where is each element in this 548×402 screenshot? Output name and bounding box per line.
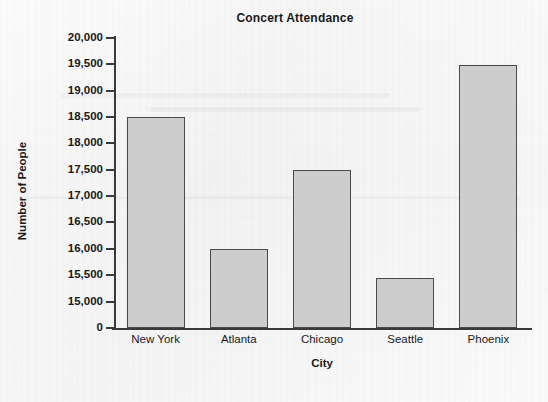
bar: [376, 278, 434, 328]
x-axis-title: City: [114, 357, 530, 369]
y-axis-tick-label: 18,500: [3, 111, 103, 123]
plot-area: [114, 38, 530, 328]
x-axis-tick-label: Phoenix: [447, 333, 530, 346]
y-axis-tick-label: 19,500: [3, 59, 103, 71]
bar: [210, 249, 268, 328]
y-axis-tick-label: 16,000: [3, 243, 103, 255]
x-axis-line: [112, 328, 532, 330]
bar: [293, 170, 351, 328]
y-axis-tick-labels: 20,00019,50019,00018,50018,00017,50017,0…: [0, 0, 103, 402]
chart-title-text: Concert Attendance: [236, 11, 353, 25]
y-axis-tick-label: 17,000: [3, 190, 103, 202]
y-axis-tick-label: 15,500: [3, 269, 103, 281]
y-axis-tick-label: 0: [3, 322, 103, 334]
x-axis-tick-label: Seattle: [364, 333, 447, 346]
bar: [459, 65, 517, 328]
bar: [127, 117, 185, 328]
chart-page: Concert Attendance Number of People 20,0…: [0, 0, 548, 402]
x-axis-tick-label: Atlanta: [197, 333, 280, 346]
y-axis-tick-label: 20,000: [3, 32, 103, 44]
y-axis-tick-label: 16,500: [3, 217, 103, 229]
x-axis-tick-label: New York: [114, 333, 197, 346]
y-axis-tick-label: 15,000: [3, 296, 103, 308]
x-axis-tick-label: Chicago: [280, 333, 363, 346]
y-axis-tick-label: 19,000: [3, 85, 103, 97]
y-axis-tick-label: 17,500: [3, 164, 103, 176]
y-axis-tick-label: 18,000: [3, 138, 103, 150]
